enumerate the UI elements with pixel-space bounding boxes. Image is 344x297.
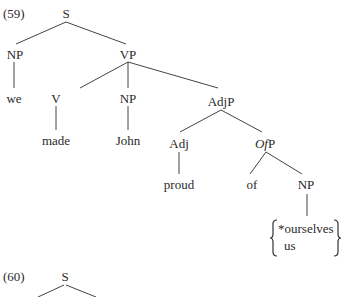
node-adjp: AdjP: [208, 95, 235, 109]
node-s-60: S: [61, 270, 68, 284]
alternatives-brace: *ourselves us: [270, 218, 344, 258]
leaf-of: of: [247, 178, 258, 192]
ofp-of-part: Of: [255, 136, 268, 151]
ofp-p-part: P: [268, 136, 275, 151]
node-np-object: NP: [120, 92, 137, 106]
example-number-60: (60): [3, 270, 25, 284]
leaf-john: John: [116, 134, 141, 148]
node-vp: VP: [120, 48, 137, 62]
node-adj: Adj: [169, 137, 189, 151]
node-np-subject: NP: [7, 48, 24, 62]
leaf-made: made: [42, 134, 70, 148]
node-s: S: [62, 7, 69, 21]
node-v: V: [51, 92, 60, 106]
node-ofp: OfP: [255, 137, 275, 151]
alternative-ourselves: *ourselves: [278, 222, 334, 236]
node-np-of: NP: [298, 178, 315, 192]
example-number-59: (59): [3, 7, 25, 21]
leaf-proud: proud: [164, 178, 194, 192]
alternative-us: us: [284, 239, 296, 253]
leaf-we: we: [6, 92, 21, 106]
